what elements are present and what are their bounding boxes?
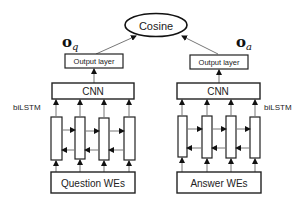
question-branch: Output layer CNN biLSTM Question WEs: [13, 54, 135, 193]
question-bilstm-cells: [51, 117, 135, 160]
svg-text:o: o: [236, 33, 246, 51]
arrow-oq-to-cosine: [96, 36, 136, 54]
answer-vector-label: o a: [236, 33, 252, 52]
svg-text:Question WEs: Question WEs: [61, 178, 125, 189]
architecture-diagram: Cosine o q o a Output layer CNN biLSTM: [0, 0, 307, 206]
question-vector-label: o q: [62, 33, 78, 52]
answer-branch: Output layer CNN biLSTM Answer WEs: [177, 55, 292, 193]
cosine-label: Cosine: [139, 20, 173, 32]
question-bilstm-label: biLSTM: [13, 103, 41, 112]
svg-text:o: o: [62, 33, 72, 51]
cosine-node: Cosine: [125, 14, 187, 37]
svg-text:CNN: CNN: [207, 86, 229, 97]
svg-text:a: a: [246, 41, 252, 52]
answer-bilstm-label: biLSTM: [264, 103, 292, 112]
answer-bilstm-cells: [178, 116, 260, 158]
arrow-oa-to-cosine: [182, 36, 218, 54]
svg-text:Output layer: Output layer: [74, 57, 115, 66]
svg-text:Answer WEs: Answer WEs: [190, 178, 247, 189]
svg-text:q: q: [72, 41, 78, 52]
svg-text:CNN: CNN: [82, 86, 104, 97]
svg-text:Output layer: Output layer: [199, 58, 240, 67]
